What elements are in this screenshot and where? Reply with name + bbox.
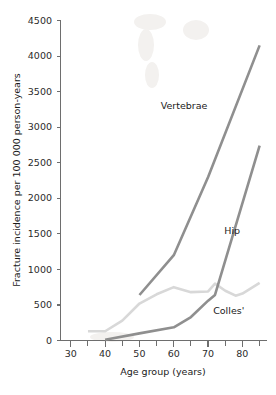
data-series-group (88, 45, 260, 339)
x-tick-label-50: 50 (133, 348, 145, 359)
series-label-colles: Colles' (213, 305, 244, 316)
y-tick-label-1500: 1500 (28, 228, 52, 239)
y-tick-label-0: 0 (46, 335, 52, 346)
x-axis-title: Age group (years) (120, 366, 206, 377)
x-tick-label-40: 40 (99, 348, 111, 359)
y-tick-label-3000: 3000 (28, 121, 52, 132)
series-label-vertebrae: Vertebrae (161, 100, 208, 111)
x-tick-label-80: 80 (236, 348, 248, 359)
x-tick-label-30: 30 (65, 348, 77, 359)
series-annotations: Vertebrae Hip Colles' (161, 100, 245, 316)
y-axis-tick-labels: 0 500 1000 1500 2000 2500 3000 3500 4000… (28, 15, 52, 346)
line-chart: 0 500 1000 1500 2000 2500 3000 3500 4000… (0, 0, 276, 395)
x-axis-ticks (71, 341, 260, 347)
x-axis-tick-labels: 30 40 50 60 70 80 (65, 348, 249, 359)
y-axis-ticks (57, 21, 61, 341)
y-tick-label-1000: 1000 (28, 264, 52, 275)
y-tick-label-500: 500 (34, 299, 52, 310)
x-tick-label-70: 70 (202, 348, 214, 359)
series-label-hip: Hip (224, 225, 240, 236)
y-axis-title: Fracture incidence per 100 000 person-ye… (11, 73, 22, 287)
y-tick-label-4000: 4000 (28, 50, 52, 61)
y-tick-label-2000: 2000 (28, 192, 52, 203)
figure-container: 0 500 1000 1500 2000 2500 3000 3500 4000… (0, 0, 276, 395)
y-tick-label-3500: 3500 (28, 86, 52, 97)
y-tick-label-4500: 4500 (28, 15, 52, 26)
x-tick-label-60: 60 (168, 348, 180, 359)
y-tick-label-2500: 2500 (28, 157, 52, 168)
